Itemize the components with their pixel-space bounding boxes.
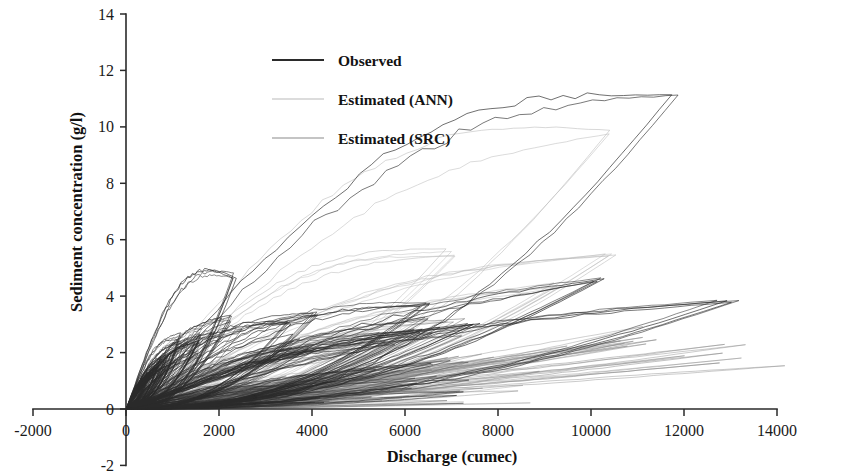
y-axis-title: Sediment concentration (g/l) [67, 112, 86, 312]
sediment-rating-curve-chart: -202468101214-20000200040006000800010000… [0, 0, 865, 474]
y-axis-tick-label: 0 [106, 401, 114, 418]
y-axis-tick-label: 4 [106, 288, 114, 305]
y-axis-tick-label: -2 [101, 457, 114, 474]
y-axis-tick-label: 6 [106, 231, 114, 248]
chart-figure: -202468101214-20000200040006000800010000… [0, 0, 865, 474]
x-axis-tick-label: 8000 [482, 422, 514, 439]
x-axis-tick-label: 2000 [203, 422, 235, 439]
x-axis-tick-label: 0 [122, 422, 130, 439]
legend-label-src: Estimated (SRC) [338, 130, 450, 148]
y-axis-tick-label: 2 [106, 344, 114, 361]
y-axis-tick-label: 14 [98, 6, 114, 23]
y-axis-tick-label: 12 [98, 62, 114, 79]
x-axis-tick-label: 14000 [757, 422, 797, 439]
x-axis-title: Discharge (cumec) [387, 447, 518, 466]
legend-label-observed: Observed [338, 52, 402, 69]
x-axis-tick-label: 6000 [389, 422, 421, 439]
x-axis-tick-label: -2000 [14, 422, 51, 439]
x-axis-tick-label: 10000 [571, 422, 611, 439]
x-axis-tick-label: 4000 [296, 422, 328, 439]
legend-label-ann: Estimated (ANN) [338, 91, 453, 109]
y-axis-tick-label: 8 [106, 175, 114, 192]
y-axis-tick-label: 10 [98, 118, 114, 135]
x-axis-tick-label: 12000 [664, 422, 704, 439]
